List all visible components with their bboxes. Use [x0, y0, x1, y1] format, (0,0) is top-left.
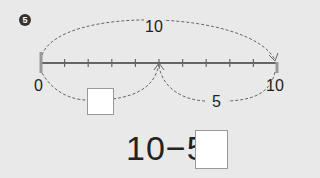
left-arc-answer-box[interactable]	[87, 88, 114, 115]
equation-answer-box[interactable]	[195, 130, 228, 169]
end-label: 10	[266, 78, 284, 94]
start-label: 0	[34, 78, 43, 94]
right-arc-label: 5	[210, 94, 223, 110]
top-arc-label: 10	[144, 19, 164, 35]
